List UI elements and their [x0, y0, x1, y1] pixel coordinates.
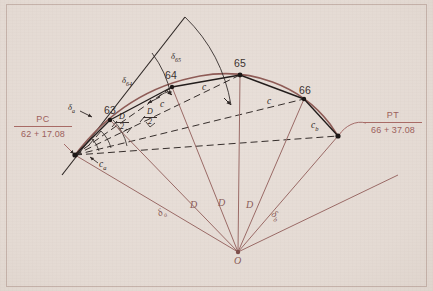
half-degree-right-denominator: 2 — [143, 118, 157, 126]
deflection-label-delta-65-sub: 65 — [175, 57, 181, 63]
chord-label-c-2-symbol: c — [202, 82, 206, 92]
curve-diagram-svg — [0, 0, 433, 291]
dashed-sight-pc-to-pt — [75, 136, 338, 155]
chord-label-c-3: c — [267, 97, 271, 107]
chord-angle-leader — [148, 97, 160, 103]
radius-extension-right — [238, 175, 398, 252]
deflection-label-delta-64-sub: 64 — [126, 81, 132, 87]
radius-to-66 — [238, 99, 304, 252]
deflection-label-delta-a-sub: a — [72, 108, 75, 114]
pc-station-value: 62 + 17.08 — [14, 129, 72, 140]
deflection-label-delta-65: δ65 — [171, 52, 181, 63]
station-label-64: 64 — [165, 70, 177, 81]
radius-to-65 — [238, 75, 240, 252]
chord-label-c-2: c — [202, 83, 206, 93]
pt-callout-leader — [339, 122, 366, 135]
central-angle-d-3-symbol: D — [246, 199, 253, 210]
central-angle-label-d-2: D — [218, 198, 225, 208]
pc-callout-leader — [64, 144, 74, 154]
point-pt — [335, 133, 340, 138]
station-label-65: 65 — [234, 58, 246, 69]
delta-a-leader — [80, 111, 92, 117]
chord-label-c-1: c — [160, 100, 164, 110]
central-angle-label-d-3: D — [246, 200, 253, 210]
chord-label-c-b-sub: b — [315, 125, 318, 132]
chord-65-to-66 — [240, 75, 304, 99]
point-64 — [170, 85, 174, 89]
chord-label-c-a-sub: a — [103, 164, 106, 171]
pt-station-value: 66 + 37.08 — [364, 125, 422, 136]
radius-to-pt — [238, 136, 338, 252]
point-65 — [238, 73, 243, 78]
pt-station-callout: PT 66 + 37.08 — [364, 110, 422, 136]
chord-label-c-3-symbol: c — [267, 96, 271, 106]
half-degree-label-left: D 2 — [115, 113, 129, 132]
point-66 — [302, 97, 306, 101]
radius-to-63 — [110, 120, 238, 252]
half-degree-left-denominator: 2 — [115, 123, 129, 131]
deflection-label-delta-64: δ64 — [122, 76, 132, 87]
pc-label: PC — [14, 114, 72, 125]
point-center-o — [236, 250, 240, 254]
pc-callout-rule — [14, 126, 72, 127]
point-pc — [72, 152, 77, 157]
center-point-label-o: O — [234, 256, 241, 266]
dashed-sight-pc-to-65 — [75, 75, 240, 155]
half-degree-left-numerator: D — [115, 113, 129, 121]
pc-station-callout: PC 62 + 17.08 — [14, 114, 72, 140]
chord-label-c-a: ca — [99, 160, 106, 171]
deflection-label-delta-a: δa — [68, 103, 75, 114]
figure-page: 63 64 65 66 δa δ64 δ65 ca c c c cb D 2 D… — [0, 0, 433, 291]
central-angle-d-1-symbol: D — [190, 199, 197, 210]
pt-label: PT — [364, 110, 422, 121]
central-angle-d-2-symbol: D — [218, 197, 225, 208]
long-deflection-arc-65 — [185, 17, 231, 105]
pt-callout-rule — [364, 122, 422, 123]
half-degree-label-right: D 2 — [143, 108, 157, 127]
point-63 — [108, 118, 112, 122]
half-degree-right-numerator: D — [143, 108, 157, 116]
c-a-leader — [90, 157, 98, 163]
chord-label-c-1-symbol: c — [160, 99, 164, 109]
chord-label-c-b: cb — [311, 121, 318, 132]
station-label-66: 66 — [299, 85, 311, 96]
central-angle-label-d-1: D — [190, 200, 197, 210]
radius-to-64 — [172, 87, 238, 252]
chord-66-to-pt — [304, 99, 338, 136]
